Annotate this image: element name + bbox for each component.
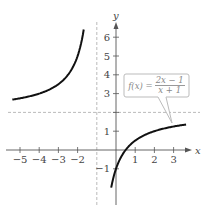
x-axis-arrow [185, 148, 192, 153]
y-tick-label: −1 [95, 163, 110, 174]
y-tick-label: 4 [104, 69, 110, 80]
fraction: 2x − 1 x + 1 [155, 76, 185, 95]
y-axis-label: y [112, 10, 119, 21]
denominator: x + 1 [158, 86, 181, 95]
x-tick-label: −5 [13, 154, 28, 165]
function-label: f(x) = 2x − 1 x + 1 [124, 74, 189, 97]
chart: xy−5−4−3−2123−113456 f(x) = 2x − 1 x + 1 [0, 0, 208, 209]
x-tick-label: 3 [170, 154, 176, 165]
function-lhs: f(x) = [128, 81, 152, 91]
x-tick-label: −4 [32, 154, 47, 165]
x-tick-label: −3 [51, 154, 66, 165]
left-branch-curve [12, 29, 83, 99]
y-tick-label: 5 [104, 51, 110, 62]
y-tick-label: 6 [104, 32, 110, 43]
x-axis-label: x [195, 145, 201, 156]
x-tick-label: 1 [132, 154, 138, 165]
x-tick-label: 2 [151, 154, 157, 165]
y-axis-arrow [114, 22, 119, 29]
x-tick-label: −2 [70, 154, 85, 165]
plot-area: xy−5−4−3−2123−113456 [0, 0, 208, 209]
y-tick-label: 3 [104, 88, 110, 99]
y-tick-label: 1 [104, 126, 110, 137]
